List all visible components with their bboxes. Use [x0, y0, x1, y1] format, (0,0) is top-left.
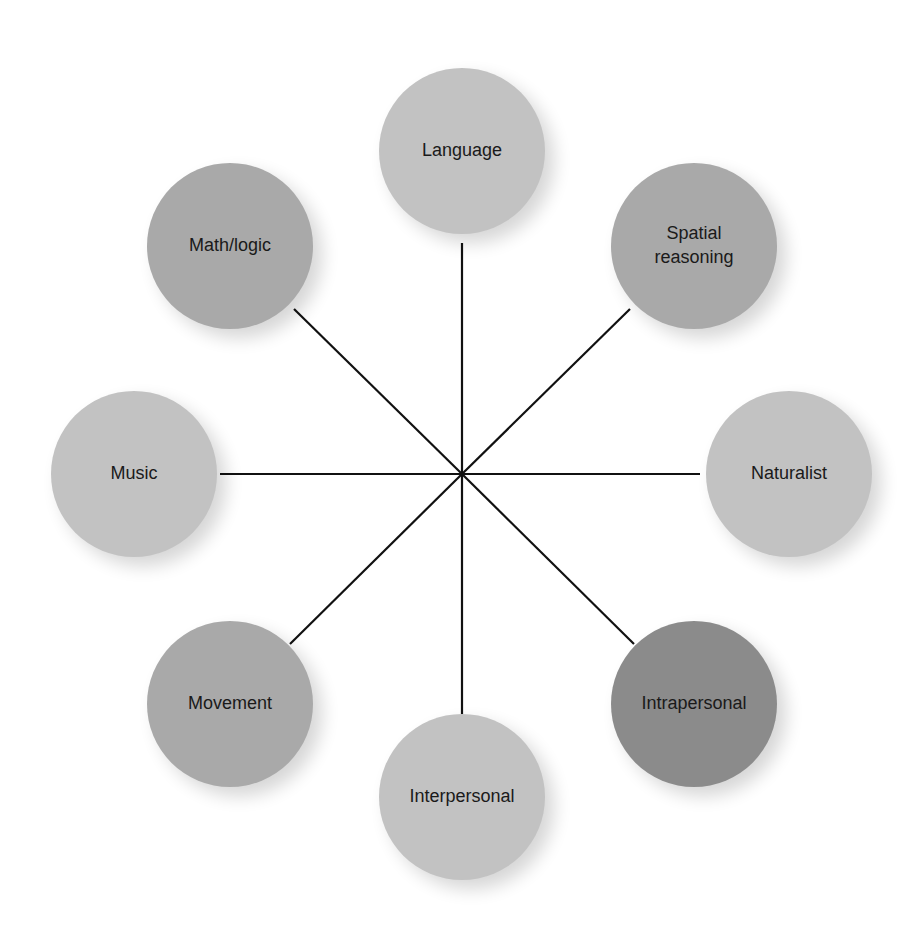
- node-interpersonal: Interpersonal: [379, 714, 554, 889]
- node-music: Music: [51, 391, 226, 566]
- node-label: Language: [422, 140, 502, 160]
- node-language: Language: [379, 68, 554, 243]
- spoke-intrapersonal: [462, 474, 634, 644]
- node-label-line: Language: [422, 140, 502, 160]
- node-label-line: reasoning: [654, 247, 733, 267]
- spoke-spatial-reasoning: [462, 309, 630, 474]
- spoke-movement: [290, 474, 462, 644]
- node-label: Movement: [188, 693, 272, 713]
- node-label-line: Math/logic: [189, 235, 271, 255]
- node-label: Math/logic: [189, 235, 271, 255]
- node-label: Naturalist: [751, 463, 827, 483]
- multiple-intelligences-diagram: LanguageSpatialreasoningNaturalistIntrap…: [0, 0, 923, 928]
- spoke-math-logic: [294, 309, 462, 474]
- node-label: Interpersonal: [409, 786, 514, 806]
- node-label: Intrapersonal: [641, 693, 746, 713]
- node-math-logic: Math/logic: [147, 163, 322, 338]
- node-label-line: Movement: [188, 693, 272, 713]
- node-label-line: Music: [110, 463, 157, 483]
- node-intrapersonal: Intrapersonal: [611, 621, 786, 796]
- node-label: Music: [110, 463, 157, 483]
- node-label-line: Intrapersonal: [641, 693, 746, 713]
- node-naturalist: Naturalist: [706, 391, 881, 566]
- node-spatial-reasoning: Spatialreasoning: [611, 163, 786, 338]
- node-label-line: Spatial: [666, 223, 721, 243]
- node-label-line: Naturalist: [751, 463, 827, 483]
- node-movement: Movement: [147, 621, 322, 796]
- node-label-line: Interpersonal: [409, 786, 514, 806]
